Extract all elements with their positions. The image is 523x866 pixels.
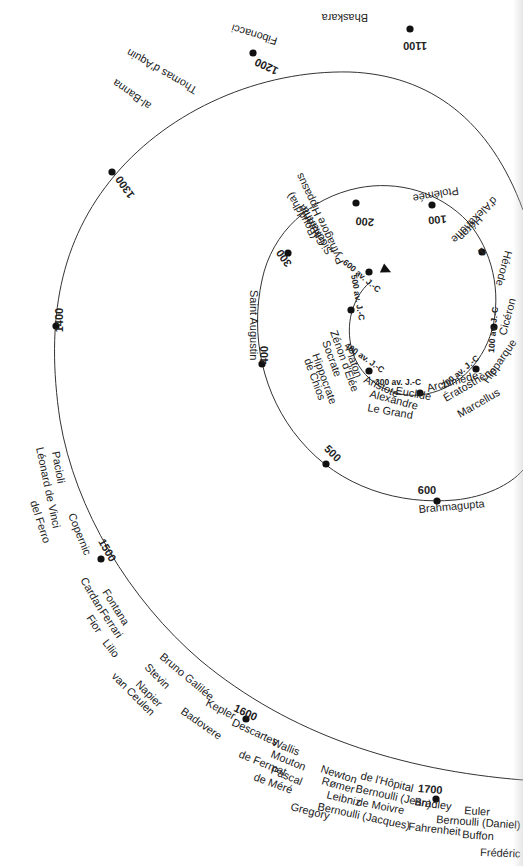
year-label: 1700 — [418, 782, 443, 796]
year-label: 1 — [476, 245, 488, 258]
person-name-label: Lilio — [100, 637, 122, 660]
person-name-label: Kepler — [204, 696, 238, 722]
person-name-label: al-Banna — [109, 77, 153, 113]
year-marker-dot — [406, 25, 413, 32]
spiral-timeline-diagram: 600 av. J.-C500 av. J.-C400 av. J.-C300 … — [0, 0, 523, 866]
year-label: 300 — [274, 247, 294, 269]
person-labels: BhaskaraFibonacciThomas d'Aquinal-BannaP… — [28, 12, 521, 859]
person-name-label: Bhaskara — [321, 12, 368, 24]
year-marker-dot — [249, 49, 256, 56]
person-name-label: Ptolémée — [412, 185, 460, 205]
timeline-start-arrow-icon — [380, 263, 393, 276]
year-marker-dot — [352, 199, 359, 206]
page-edge-shadow — [513, 0, 523, 866]
person-name-label: d'Alexandrie — [449, 195, 500, 246]
person-name-label: Thomas d'Aquin — [124, 47, 199, 97]
year-marker-dot — [347, 306, 354, 313]
year-label: 1400 — [53, 308, 65, 332]
person-name-label: Brahmagupta — [418, 497, 486, 515]
year-label: 1300 — [113, 174, 137, 201]
year-label: 1100 — [403, 40, 427, 52]
person-name-label: Saint Augustin — [248, 290, 260, 360]
person-name-label: Buffon — [462, 828, 494, 842]
year-label: 100 — [428, 213, 447, 227]
year-label: 1200 — [253, 56, 280, 77]
person-name-label: Fibonacci — [230, 22, 279, 47]
person-name-label: Copernic — [66, 511, 94, 557]
year-label: 600 — [418, 484, 436, 496]
year-marker-dot — [322, 460, 329, 467]
year-marker-dot — [108, 168, 115, 175]
year-label: 200 — [355, 215, 374, 229]
year-marker-dot — [97, 555, 104, 562]
person-name-label: Bradley — [414, 795, 453, 812]
person-name-label: Hérode — [494, 249, 515, 287]
spiral-timeline-canvas: 600 av. J.-C500 av. J.-C400 av. J.-C300 … — [0, 0, 523, 866]
